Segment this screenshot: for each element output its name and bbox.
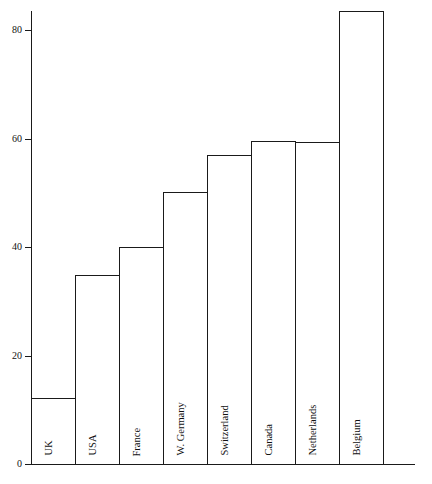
bar-category-label: USA (88, 435, 99, 456)
bar-canada[interactable]: Canada (251, 141, 296, 465)
bar-belgium[interactable]: Belgium (339, 11, 384, 465)
bar-category-label: Netherlands (308, 405, 319, 456)
bar-france[interactable]: France (119, 247, 164, 465)
bar-category-label: W. Germany (176, 403, 187, 456)
bar-category-label: UK (44, 441, 55, 456)
bar-switzerland[interactable]: Switzerland (207, 155, 252, 465)
bar-category-label: Belgium (352, 420, 363, 456)
bar-usa[interactable]: USA (75, 275, 120, 465)
bar-category-label: Switzerland (220, 406, 231, 456)
bar-category-label: Canada (264, 424, 275, 456)
bar-netherlands[interactable]: Netherlands (295, 142, 340, 465)
bar-w-germany[interactable]: W. Germany (163, 192, 208, 465)
bar-series: UKUSAFranceW. GermanySwitzerlandCanadaNe… (0, 0, 432, 484)
bar-chart-figure: 806040200 UKUSAFranceW. GermanySwitzerla… (0, 0, 432, 484)
plot-area: 806040200 UKUSAFranceW. GermanySwitzerla… (0, 0, 432, 484)
bar-category-label: France (132, 427, 143, 456)
bar-uk[interactable]: UK (31, 398, 76, 465)
